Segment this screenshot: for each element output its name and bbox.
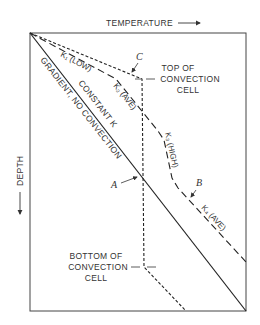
marker-c-arrow-icon xyxy=(132,63,138,72)
k4-label: K₄ (AVE) xyxy=(200,203,228,232)
marker-c-label: C xyxy=(136,51,143,62)
marker-b-arrow-icon xyxy=(191,190,196,197)
temperature-depth-diagram: TEMPERATURE DEPTH K₁ (LOW) K₂ (AVE) K₃ (… xyxy=(0,0,260,325)
k1-label: K₁ (LOW) xyxy=(59,50,93,74)
top-cell-label-2: CONVECTION xyxy=(160,74,220,84)
x-axis-label: TEMPERATURE xyxy=(106,18,173,28)
bottom-cell-label-3: CELL xyxy=(85,273,107,283)
layered-k-line xyxy=(30,33,246,262)
marker-a-arrow-icon xyxy=(121,177,137,183)
y-axis-label: DEPTH xyxy=(15,156,25,186)
k3-label: K₃ (HIGH) xyxy=(163,131,180,169)
top-cell-label-3: CELL xyxy=(177,85,199,95)
k2-label: K₂ (AVE) xyxy=(111,82,138,112)
gradient-no-convection-label: GRADIENT, NO CONVECTION xyxy=(38,55,124,161)
marker-b-label: B xyxy=(196,177,202,188)
bottom-cell-label-2: CONVECTION xyxy=(68,262,128,272)
top-cell-label-1: TOP OF xyxy=(161,63,194,73)
marker-a-label: A xyxy=(110,179,118,190)
bottom-cell-label-1: BOTTOM OF xyxy=(69,251,122,261)
